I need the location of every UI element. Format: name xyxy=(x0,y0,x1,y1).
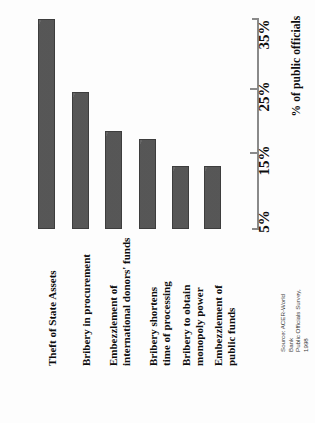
bar-bribery-in-procurement xyxy=(72,92,89,229)
bar-theft-of-state-assets xyxy=(38,19,55,229)
category-label-embezzlement-of-public-funds: Embezzlement of public funds xyxy=(212,231,237,366)
bar-embezzlement-of-public-funds xyxy=(204,166,221,229)
axis-tick-label-5: 5% xyxy=(256,200,273,244)
bar-bribery-shortens-time-of-processing xyxy=(139,139,156,229)
category-label-embezzlement-international-donors-funds: Embezzlement of international donors' fu… xyxy=(107,231,132,366)
bar-bribery-to-obtain-monopoly-power xyxy=(172,166,189,229)
axis-tick-label-35: 35% xyxy=(256,13,273,57)
axis-tick-label-25: 25% xyxy=(256,75,273,119)
category-label-bribery-in-procurement: Bribery in procurement xyxy=(80,231,93,366)
category-label-bribery-shortens-time-of-processing: Bribery shortens time of processing xyxy=(147,231,172,366)
bar-chart-plot: 35% 25% 15% 5% % of public officials The… xyxy=(0,0,315,423)
category-label-bribery-to-obtain-monopoly-power: Bribery to obtain monopoly power xyxy=(180,231,205,366)
chart-page: 35% 25% 15% 5% % of public officials The… xyxy=(0,0,315,423)
bar-embezzlement-international-donors-funds xyxy=(105,131,122,229)
category-label-theft-of-state-assets: Theft of State Assets xyxy=(46,231,59,366)
value-axis-title: % of public officials xyxy=(290,0,302,136)
axis-tick-label-15: 15% xyxy=(256,139,273,183)
source-note: Source: ACER-World Bank Public Officials… xyxy=(279,282,309,352)
